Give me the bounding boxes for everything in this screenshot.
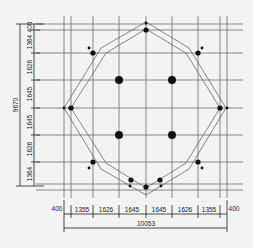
grid-lines (36, 16, 243, 198)
dim-bottom-7: 1355 (202, 206, 217, 213)
dim-bottom-total: 10053 (137, 220, 155, 227)
dim-left-2: 1364 (26, 34, 33, 49)
dim-left-5: 1645 (26, 114, 33, 129)
bottom-dimension (64, 200, 227, 232)
dim-bottom-1: 400 (52, 205, 63, 212)
dim-bottom-5: 1645 (152, 206, 167, 213)
dim-bottom-3: 1626 (99, 206, 114, 213)
dim-left-4: 1645 (26, 86, 33, 101)
dim-left-3: 1626 (26, 59, 33, 74)
columns (115, 76, 176, 139)
dim-left-6: 1626 (26, 141, 33, 156)
dim-bottom-6: 1626 (178, 206, 193, 213)
dim-left-total: 9670 (12, 97, 19, 112)
left-dimension-labels: 9670 400 1364 1626 1645 1645 1626 1364 (12, 21, 33, 181)
floor-plan-drawing: 9670 400 1364 1626 1645 1645 1626 1364 4… (0, 0, 253, 248)
dim-left-7: 1364 (26, 166, 33, 181)
dim-bottom-4: 1645 (125, 206, 140, 213)
perimeter-nodes (63, 22, 229, 190)
dim-bottom-2: 1355 (75, 206, 90, 213)
dim-bottom-8: 400 (229, 205, 240, 212)
dim-left-1: 400 (26, 21, 33, 32)
